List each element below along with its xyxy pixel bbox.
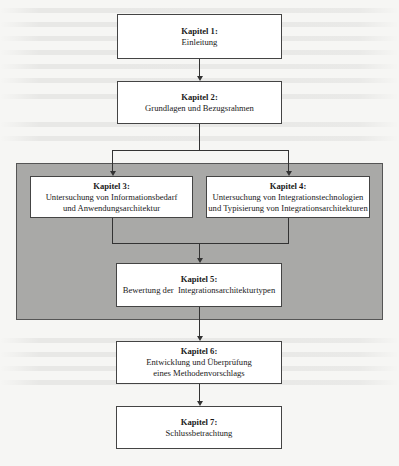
chapter-text: Grundlagen und Bezugsrahmen [145, 103, 254, 114]
chapter-title: Kapitel 3: [93, 181, 130, 192]
chapter-2-box: Kapitel 2: Grundlagen und Bezugsrahmen [117, 81, 282, 124]
split-line [112, 150, 289, 151]
chapter-title: Kapitel 4: [270, 181, 307, 192]
chapter-title: Kapitel 5: [181, 274, 218, 285]
chapter-title: Kapitel 7: [181, 417, 218, 428]
chapter-1-box: Kapitel 1: Einleitung [117, 14, 282, 59]
chapter-text: Bewertung der Integrationsarchitekturtyp… [123, 285, 276, 296]
connector-to-5 [199, 243, 200, 258]
connector-5-6 [199, 307, 200, 336]
chapter-4-box: Kapitel 4: Untersuchung von Integrations… [206, 176, 370, 218]
chapter-6-box: Kapitel 6: Entwicklung und Überprüfung e… [116, 341, 282, 384]
connector-to-4 [288, 150, 289, 171]
chapter-text: Untersuchung von Integrationstechnologie… [213, 192, 364, 203]
chapter-text: und Typisierung von Integrationsarchitek… [208, 203, 367, 214]
chapter-text: eines Methodenvorschlags [153, 368, 244, 379]
chapter-text: und Anwendungsarchitektur [63, 203, 160, 214]
connector-6-7 [199, 384, 200, 401]
connector-from-4 [288, 218, 289, 243]
chapter-title: Kapitel 1: [181, 26, 218, 37]
chapter-text: Einleitung [182, 37, 218, 48]
merge-line [112, 243, 289, 244]
connector-2-split [199, 124, 200, 150]
connector-to-3 [112, 150, 113, 171]
chapter-title: Kapitel 6: [181, 346, 218, 357]
chapter-text: Entwicklung und Überprüfung [146, 357, 252, 368]
chapter-7-box: Kapitel 7: Schlussbetrachtung [116, 406, 282, 449]
chapter-text: Untersuchung von Informationsbedarf [46, 192, 178, 203]
chapter-5-box: Kapitel 5: Bewertung der Integrationsarc… [116, 263, 282, 307]
chapter-text: Schlussbetrachtung [166, 428, 233, 439]
connector-from-3 [112, 218, 113, 243]
chapter-title: Kapitel 2: [181, 92, 218, 103]
connector-1-2 [199, 59, 200, 76]
chapter-3-box: Kapitel 3: Untersuchung von Informations… [30, 176, 193, 218]
